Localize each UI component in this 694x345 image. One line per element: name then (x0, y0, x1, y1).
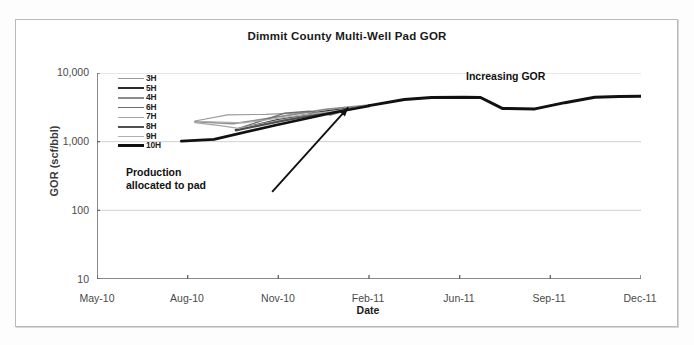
x-tick-label-4: Jun-11 (424, 292, 494, 304)
annotation-production-allocated: Production allocated to pad (126, 166, 256, 192)
legend-swatch-10h (118, 144, 144, 147)
legend-item: 10H (118, 141, 178, 151)
annotation-production-line2: allocated to pad (126, 179, 256, 192)
legend: 3H 5H 4H 6H 7H 8H 9H 10H (118, 74, 178, 151)
legend-label-10h: 10H (144, 141, 161, 151)
y-axis-title: GOR (scf/bbl) (48, 101, 60, 221)
x-tick-label-2: Nov-10 (243, 292, 313, 304)
trunk-series (369, 96, 641, 109)
y-tick-label-100: 100 (37, 204, 89, 216)
legend-swatch-3h (118, 78, 144, 79)
x-tick-label-3: Feb-11 (333, 292, 403, 304)
annotation-increasing-gor: Increasing GOR (466, 70, 545, 82)
x-tick-label-1: Aug-10 (152, 292, 222, 304)
legend-swatch-4h (118, 97, 144, 99)
annotation-production-line1: Production (126, 166, 256, 179)
x-tick-label-0: May-10 (62, 292, 132, 304)
x-tick-label-5: Sep-11 (514, 292, 584, 304)
legend-swatch-7h (118, 117, 144, 118)
legend-swatch-8h (118, 126, 144, 128)
legend-swatch-6h (118, 107, 144, 108)
data-series-group (181, 105, 369, 141)
y-tick-label-10: 10 (37, 273, 89, 285)
chart-title: Dimmit County Multi-Well Pad GOR (0, 30, 694, 42)
x-tick-label-6: Dec-11 (605, 292, 675, 304)
legend-swatch-9h (118, 136, 144, 137)
x-axis-title: Date (333, 304, 403, 316)
y-tick-label-1000: 1,000 (37, 135, 89, 147)
y-tick-label-10000: 10,000 (37, 66, 89, 78)
chart-figure: Dimmit County Multi-Well Pad GOR 10,000 … (0, 0, 694, 345)
legend-swatch-5h (118, 87, 144, 89)
